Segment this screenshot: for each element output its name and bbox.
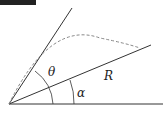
theta-label: θ [48,65,56,79]
incline-diagram: θ α R [0,0,165,113]
alpha-label: α [77,86,85,100]
alpha-arc [70,80,74,104]
trajectory-arc [9,35,140,104]
range-label: R [103,69,113,83]
